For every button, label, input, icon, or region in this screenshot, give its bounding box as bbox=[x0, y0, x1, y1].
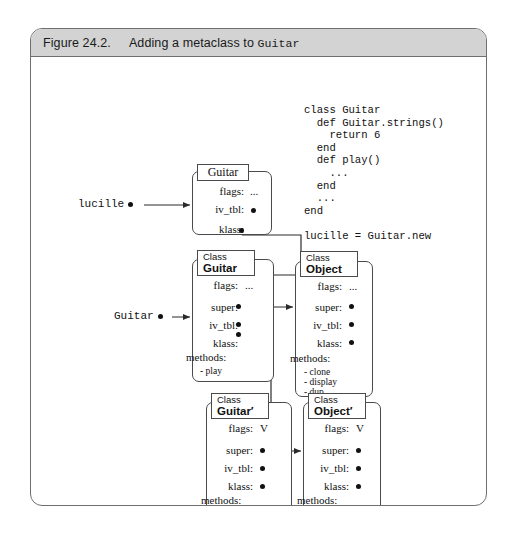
box-class-object-header: Class Object bbox=[300, 251, 358, 277]
field-name: super: bbox=[315, 300, 342, 314]
pointer-label-guitar-text: Guitar bbox=[114, 310, 154, 322]
field-row: iv_tbl: bbox=[192, 202, 244, 216]
method-item: - play bbox=[200, 366, 222, 377]
field-row: flags: bbox=[290, 279, 342, 293]
box-class-object-keyword: Class bbox=[306, 253, 330, 264]
field-name: super: bbox=[322, 443, 349, 457]
field-pointer-dot bbox=[349, 322, 354, 327]
field-row: super: bbox=[186, 300, 238, 314]
field-row: flags: bbox=[201, 421, 253, 435]
field-name: iv_tbl: bbox=[215, 202, 244, 216]
methods-label: methods: bbox=[186, 351, 226, 364]
field-name: iv_tbl: bbox=[313, 318, 342, 332]
field-row: iv_tbl: bbox=[290, 318, 342, 332]
box-guitar-object-header: Guitar bbox=[197, 164, 249, 181]
field-name: iv_tbl: bbox=[320, 461, 349, 475]
field-pointer-dot bbox=[260, 466, 265, 471]
field-pointer-dot bbox=[236, 332, 241, 337]
box-class-object-prime-title: Object′ bbox=[314, 405, 353, 417]
field-name: iv_tbl: bbox=[209, 318, 238, 332]
field-pointer-dot bbox=[356, 466, 361, 471]
field-row: super: bbox=[201, 443, 253, 457]
field-value: V bbox=[356, 421, 364, 435]
field-row: iv_tbl: bbox=[186, 318, 238, 332]
field-row: klass: bbox=[192, 222, 244, 236]
field-row: super: bbox=[297, 443, 349, 457]
pointer-label-lucille-text: lucille bbox=[78, 198, 124, 210]
field-row: klass: bbox=[186, 336, 238, 350]
code-listing: class Guitar def Guitar.strings() return… bbox=[304, 104, 444, 243]
field-value: V bbox=[260, 421, 268, 435]
field-name: super: bbox=[211, 300, 238, 314]
field-row: super: bbox=[290, 300, 342, 314]
field-pointer-dot bbox=[239, 228, 244, 233]
field-name: flags: bbox=[325, 421, 349, 435]
field-row: klass: bbox=[297, 479, 349, 493]
pointer-label-guitar: Guitar bbox=[114, 310, 163, 322]
field-row: klass: bbox=[201, 479, 253, 493]
field-row: klass: bbox=[290, 336, 342, 350]
figure-caption-code: Guitar bbox=[258, 37, 300, 50]
field-name: klass: bbox=[324, 479, 349, 493]
box-class-object-prime-keyword: Class bbox=[314, 395, 338, 406]
field-pointer-dot bbox=[236, 304, 241, 309]
box-class-object-prime-header: Class Object′ bbox=[308, 393, 366, 419]
box-class-guitar-keyword: Class bbox=[203, 252, 227, 263]
field-value-text: ... bbox=[250, 185, 258, 197]
field-pointer-dot bbox=[356, 484, 361, 489]
field-value-text: V bbox=[356, 422, 364, 434]
field-value-text: ... bbox=[349, 280, 357, 292]
pointer-dot-lucille bbox=[128, 202, 133, 207]
field-name: super: bbox=[226, 443, 253, 457]
field-row: flags: bbox=[192, 184, 244, 198]
field-value: ... bbox=[349, 279, 357, 293]
methods-label: methods: bbox=[297, 494, 337, 506]
diagram-canvas: class Guitar def Guitar.strings() return… bbox=[31, 57, 486, 506]
pointer-label-lucille: lucille bbox=[78, 198, 133, 210]
field-name: klass: bbox=[228, 479, 253, 493]
field-row: flags: bbox=[297, 421, 349, 435]
field-pointer-dot bbox=[260, 448, 265, 453]
figure-caption-number: Figure 24.2. bbox=[43, 36, 111, 50]
field-value-text: V bbox=[260, 422, 268, 434]
box-guitar-object-title: Guitar bbox=[208, 166, 239, 179]
field-value: ... bbox=[250, 184, 258, 198]
field-pointer-dot bbox=[349, 304, 354, 309]
field-row: iv_tbl: bbox=[297, 461, 349, 475]
box-class-object-title: Object bbox=[306, 263, 342, 275]
field-pointer-dot bbox=[236, 322, 241, 327]
figure-caption-text-plain: Adding a metaclass to bbox=[129, 36, 258, 50]
box-class-guitar-prime-keyword: Class bbox=[217, 395, 241, 406]
field-pointer-dot bbox=[356, 448, 361, 453]
figure-frame: Figure 24.2. Adding a metaclass to Guita… bbox=[30, 28, 487, 506]
field-row: flags: bbox=[186, 278, 238, 292]
methods-label: methods: bbox=[201, 494, 241, 506]
field-name: klass: bbox=[317, 336, 342, 350]
field-value: ... bbox=[245, 278, 253, 292]
field-pointer-dot bbox=[349, 340, 354, 345]
box-class-guitar-header: Class Guitar bbox=[197, 250, 255, 276]
methods-label: methods: bbox=[290, 352, 330, 365]
pointer-dot-guitar bbox=[158, 314, 163, 319]
box-class-guitar-prime-header: Class Guitar′ bbox=[211, 393, 269, 419]
field-name: klass: bbox=[213, 336, 238, 350]
field-pointer-dot bbox=[260, 484, 265, 489]
field-row: iv_tbl: bbox=[201, 461, 253, 475]
field-name: flags: bbox=[229, 421, 253, 435]
figure-caption-text: Adding a metaclass to Guitar bbox=[129, 36, 300, 50]
field-name: flags: bbox=[214, 278, 238, 292]
field-name: iv_tbl: bbox=[224, 461, 253, 475]
box-class-guitar-title: Guitar bbox=[203, 262, 237, 274]
figure-caption-bar: Figure 24.2. Adding a metaclass to Guita… bbox=[31, 29, 486, 57]
box-class-guitar-prime-title: Guitar′ bbox=[217, 405, 254, 417]
field-name: flags: bbox=[318, 279, 342, 293]
field-pointer-dot bbox=[251, 208, 256, 213]
field-name: flags: bbox=[220, 184, 244, 198]
field-value-text: ... bbox=[245, 279, 253, 291]
